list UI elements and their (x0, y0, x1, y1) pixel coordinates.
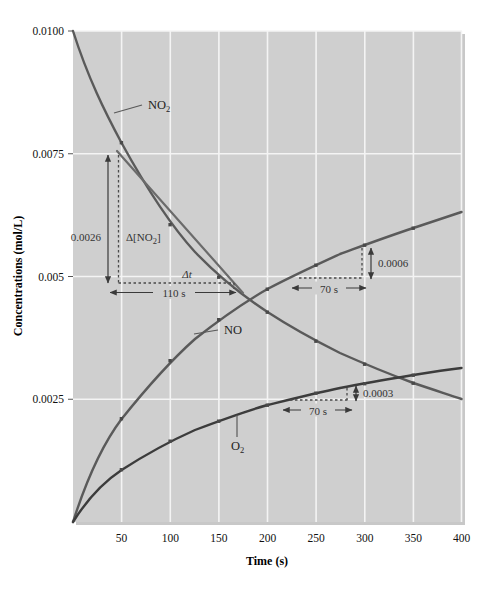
o2-delta-conc-label: 0.0003 (363, 387, 394, 399)
series-label-no: NO (224, 323, 242, 337)
no2-delta-conc-label: 0.0026 (71, 231, 102, 243)
no-delta-conc-label: 0.0006 (378, 257, 409, 269)
y-tick-label-2: 0.005 (38, 271, 64, 283)
no2-delta-t-label: 110 s (162, 287, 185, 299)
y-tick-label-3: 0.0025 (32, 393, 64, 405)
x-tick-label-3: 200 (259, 532, 277, 544)
y-tick-label-1: 0.0075 (32, 148, 64, 160)
no2-delta-t-symbol: Δt (181, 268, 192, 280)
y-tick-label-0: 0.0100 (32, 25, 64, 37)
x-tick-label-0: 50 (116, 532, 128, 544)
x-tick-label-2: 150 (210, 532, 228, 544)
x-tick-label-7: 400 (453, 532, 471, 544)
x-tick-label-1: 100 (162, 532, 180, 544)
o2-delta-t-label: 70 s (309, 405, 327, 417)
x-axis-title: Time (s) (246, 554, 288, 568)
x-tick-label-4: 250 (307, 532, 325, 544)
kinetics-concentration-chart: 0.0100 0.0075 0.005 0.0025 50 100 150 20… (0, 0, 490, 591)
no-delta-t-label: 70 s (320, 283, 338, 295)
y-axis-title: Concentrations (mol/L) (11, 216, 25, 336)
x-tick-label-5: 300 (356, 532, 374, 544)
x-tick-label-6: 350 (405, 532, 423, 544)
